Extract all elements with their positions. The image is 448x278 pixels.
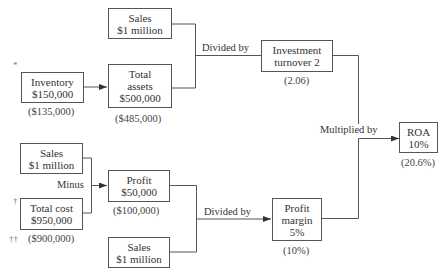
node-label: Investment [273, 44, 322, 56]
node-value: $500,000 [119, 92, 160, 104]
node-label: margin [282, 214, 313, 226]
node-total-cost: Total cost $950,000 [20, 198, 83, 230]
operator-multiplied-by: Multiplied by [319, 124, 378, 136]
node-total-assets-alt-value: ($485,000) [115, 113, 161, 125]
double-dagger-marker: †† [9, 234, 18, 244]
node-value: 10% [408, 138, 428, 150]
node-total-cost-alt-value: ($900,000) [28, 233, 74, 245]
node-sales-top: Sales $1 million [108, 8, 172, 39]
node-value: 5% [290, 226, 305, 238]
node-roa-alt-value: (20.6%) [401, 157, 435, 169]
node-value: $1 million [116, 253, 162, 265]
node-value: turnover 2 [274, 56, 320, 68]
node-label: Total [129, 68, 151, 80]
node-label: Profit [126, 174, 151, 186]
node-label: Sales [127, 241, 150, 253]
node-investment-turnover-alt-value: (2.06) [284, 75, 309, 87]
node-investment-turnover: Investment turnover 2 [261, 40, 333, 72]
node-label: Total cost [30, 202, 73, 214]
node-label: Profit [284, 202, 309, 214]
node-value: $150,000 [32, 88, 73, 100]
node-inventory: Inventory $150,000 [21, 72, 84, 103]
node-profit: Profit $50,000 [108, 170, 170, 202]
node-profit-margin: Profit margin 5% [272, 198, 322, 241]
asterisk-marker: * [13, 60, 18, 70]
node-label: assets [127, 80, 153, 92]
node-total-assets: Total assets $500,000 [108, 64, 172, 108]
node-profit-alt-value: ($100,000) [113, 205, 159, 217]
node-label: ROA [407, 126, 430, 138]
operator-divided-by-top: Divided by [201, 42, 250, 54]
node-sales-bottom: Sales $1 million [108, 237, 170, 268]
node-value: $1 million [117, 24, 163, 36]
node-profit-margin-alt-value: (10%) [283, 245, 309, 257]
node-label: Sales [128, 12, 151, 24]
operator-divided-by-bottom: Divided by [203, 206, 252, 218]
node-sales-left: Sales $1 million [20, 143, 83, 174]
node-value: $50,000 [121, 186, 157, 198]
node-roa: ROA 10% [399, 122, 438, 153]
node-inventory-alt-value: ($135,000) [28, 106, 74, 118]
node-value: $950,000 [31, 214, 72, 226]
dagger-marker: † [13, 196, 18, 206]
node-value: $1 million [29, 159, 75, 171]
operator-minus: Minus [56, 179, 85, 191]
node-label: Sales [40, 147, 63, 159]
node-label: Inventory [31, 76, 74, 88]
